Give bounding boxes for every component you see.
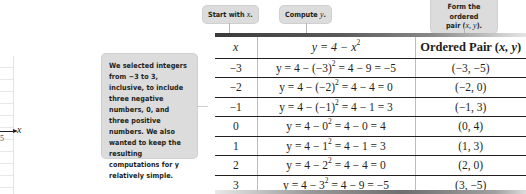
header-equation-exponent: 2 [357,38,361,47]
header-equation-text: y = 4 − x [312,40,357,54]
cell-ordered-pair: (−2, 0) [415,78,526,98]
compute-y-callout: Compute y. [280,6,331,23]
cell-x: −1 [215,97,257,117]
cell-computation: y = 4 − (−2)2 = 4 − 4 = 0 [257,78,415,98]
exponent: 2 [328,156,332,165]
x-axis-label: x [17,124,21,135]
cell-x: −2 [215,78,257,98]
table-bottom-bar [215,190,526,194]
values-table: x y = 4 − x2 Ordered Pair (x, y) −3 y = … [215,37,526,194]
computation-text: = 4 − 9 = −5 [336,62,396,74]
cell-computation: y = 4 − 02 = 4 − 0 = 4 [257,117,415,137]
start-with-x-callout: Start with x. [203,6,258,23]
computation-text: y = 4 − (−1) [279,101,335,113]
header-text: ) [517,40,521,54]
callout-text: Compute [285,10,320,19]
computation-text: y = 4 − 0 [286,120,328,132]
table-row: −2 y = 4 − (−2)2 = 4 − 4 = 0 (−2, 0) [215,78,526,98]
exponent: 2 [335,78,339,87]
callout-text: Form the ordered [435,2,493,21]
cell-ordered-pair: (−3, −5) [415,58,526,78]
exponent: 2 [335,98,339,107]
callout-var: x, y [466,21,477,30]
computation-text: y = 4 − 2 [286,159,328,171]
table-row: 0 y = 4 − 02 = 4 − 0 = 4 (0, 4) [215,117,526,137]
computation-text: = 4 − 4 = 0 [339,81,393,93]
cell-computation: y = 4 − (−1)2 = 4 − 1 = 3 [257,97,415,117]
cell-ordered-pair: (0, 4) [415,117,526,137]
exponent: 2 [332,59,336,68]
computation-text: = 4 − 0 = 4 [332,120,386,132]
header-text: Ordered Pair ( [420,40,499,54]
computation-text: y = 4 − (−3) [276,62,332,74]
header-vars: x, y [499,40,517,54]
callout-pointer [464,25,465,33]
callout-var: y [320,10,324,19]
cell-ordered-pair: (−1, 3) [415,97,526,117]
cell-x: 0 [215,117,257,137]
callout-pointer [229,23,230,33]
table-row: 2 y = 4 − 22 = 4 − 4 = 0 (2, 0) [215,156,526,176]
header-ordered-pair: Ordered Pair (x, y) [415,37,526,58]
callout-text: pair ( [446,21,466,30]
computation-text: y = 4 − (−2) [279,81,335,93]
cell-computation: y = 4 − 12 = 4 − 1 = 3 [257,136,415,156]
table-row: −1 y = 4 − (−1)2 = 4 − 1 = 3 (−1, 3) [215,97,526,117]
cell-x: −3 [215,58,257,78]
x-axis-arrow-icon [0,131,14,132]
cell-x: 1 [215,136,257,156]
graph-grid-fragment [0,56,14,194]
cell-computation: y = 4 − 22 = 4 − 4 = 0 [257,156,415,176]
computation-text: = 4 − 4 = 0 [332,159,386,171]
callout-pointer [306,23,307,33]
x-axis-tick-label: 5 [0,134,4,143]
cell-x: 2 [215,156,257,176]
computation-text: y = 4 − 1 [286,140,328,152]
cell-ordered-pair: (1, 3) [415,136,526,156]
computation-text: = 4 − 1 = 3 [339,101,393,113]
header-x: x [215,37,257,58]
table-header-row: x y = 4 − x2 Ordered Pair (x, y) [215,37,526,58]
computation-text: = 4 − 1 = 3 [332,140,386,152]
cell-ordered-pair: (2, 0) [415,156,526,176]
table-row: −3 y = 4 − (−3)2 = 4 − 9 = −5 (−3, −5) [215,58,526,78]
table-row: 1 y = 4 − 12 = 4 − 1 = 3 (1, 3) [215,136,526,156]
exponent: 2 [325,176,329,185]
explanation-callout: We selected integers from −3 to 3, inclu… [102,54,197,158]
exponent: 2 [328,117,332,126]
exponent: 2 [328,137,332,146]
callout-text: ). [477,21,482,30]
callout-var: x [247,10,251,19]
callout-text: Start with [208,10,247,19]
cell-computation: y = 4 − (−3)2 = 4 − 9 = −5 [257,58,415,78]
header-equation: y = 4 − x2 [257,37,415,58]
